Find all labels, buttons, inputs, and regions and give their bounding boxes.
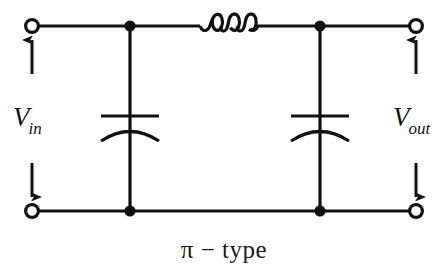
node-c2-bottom: [314, 205, 325, 216]
node-c1-top: [124, 20, 135, 31]
series-inductor: [200, 14, 258, 31]
output-voltage-subscript: out: [409, 119, 431, 138]
output-top-terminal[interactable]: [410, 20, 423, 33]
node-c1-bottom: [124, 205, 135, 216]
output-voltage-label: Vout: [393, 104, 431, 133]
figure-caption: π − type: [0, 236, 448, 264]
input-bottom-terminal[interactable]: [26, 205, 39, 218]
node-c2-top: [314, 20, 325, 31]
circuit-diagram-figure: Vin Vout π − type: [0, 0, 448, 277]
input-voltage-label: Vin: [13, 104, 43, 133]
input-top-terminal[interactable]: [26, 20, 39, 33]
output-bottom-terminal[interactable]: [410, 205, 423, 218]
inductor-coil-1: [200, 14, 222, 30]
input-voltage-subscript: in: [29, 119, 42, 138]
output-voltage-symbol: V: [393, 102, 410, 132]
input-voltage-symbol: V: [13, 102, 30, 132]
